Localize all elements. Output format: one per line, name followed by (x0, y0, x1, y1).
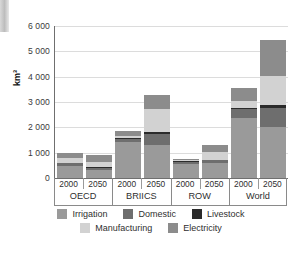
y-tick-label-5000: 5 000 (4, 47, 50, 55)
x-tick-year-briics-2000: 2000 (112, 179, 142, 189)
legend-swatch-livestock (192, 209, 202, 219)
gridline-4000 (55, 77, 288, 78)
bar-segment-manufacturing (202, 152, 228, 159)
bar-segment-irrigation (115, 142, 141, 178)
bar-segment-irrigation (144, 145, 170, 178)
x-tick-group-world: World (228, 191, 288, 201)
bar-segment-domestic (231, 109, 257, 117)
chart-legend: IrrigationDomesticLivestock Manufacturin… (0, 209, 302, 237)
legend-item-irrigation[interactable]: Irrigation (57, 209, 107, 219)
legend-label-manufacturing: Manufacturing (95, 223, 152, 233)
x-tick-year-row-2050: 2050 (199, 179, 229, 189)
bar-segment-electricity (202, 145, 228, 153)
chart-figure: km³ 01 0002 0003 0004 0005 0006 000 2000… (0, 0, 302, 255)
x-tick-group-oecd: OECD (53, 191, 113, 201)
legend-swatch-manufacturing (80, 223, 90, 233)
legend-swatch-irrigation (57, 209, 67, 219)
bar-segment-irrigation (202, 163, 228, 178)
bar-segment-electricity (86, 155, 112, 162)
bar-segment-manufacturing (231, 101, 257, 108)
gridline-6000 (55, 26, 288, 27)
x-tick-year-oecd-2000: 2000 (54, 179, 84, 189)
legend-label-electricity: Electricity (183, 223, 222, 233)
legend-swatch-domestic (123, 209, 133, 219)
x-tick-year-world-2000: 2000 (228, 179, 258, 189)
x-tick-group-row: ROW (170, 191, 230, 201)
x-tick-year-briics-2050: 2050 (141, 179, 171, 189)
bar-briics-2000 (115, 131, 141, 178)
legend-row-secondary: ManufacturingElectricity (0, 223, 302, 233)
y-tick-label-1000: 1 000 (4, 149, 50, 157)
y-tick-label-2000: 2 000 (4, 123, 50, 131)
bar-segment-manufacturing (144, 109, 170, 133)
bar-world-2000 (231, 88, 257, 178)
bar-segment-irrigation (173, 164, 199, 178)
bar-row-2050 (202, 145, 228, 178)
bar-briics-2050 (144, 95, 170, 178)
plot-area (54, 26, 287, 178)
y-tick-label-6000: 6 000 (4, 22, 50, 30)
y-tick-label-4000: 4 000 (4, 73, 50, 81)
legend-item-livestock[interactable]: Livestock (192, 209, 245, 219)
legend-item-electricity[interactable]: Electricity (168, 223, 222, 233)
bar-segment-irrigation (260, 127, 286, 178)
bar-oecd-2000 (57, 153, 83, 178)
legend-label-livestock: Livestock (207, 209, 245, 219)
x-tick-group-briics: BRIICS (111, 191, 171, 201)
bar-segment-irrigation (86, 170, 112, 178)
bar-segment-irrigation (231, 118, 257, 178)
legend-label-irrigation: Irrigation (72, 209, 107, 219)
x-tick-year-row-2000: 2000 (170, 179, 200, 189)
bar-segment-electricity (260, 40, 286, 76)
legend-item-manufacturing[interactable]: Manufacturing (80, 223, 152, 233)
legend-label-domestic: Domestic (138, 209, 176, 219)
bar-world-2050 (260, 40, 286, 178)
bar-segment-electricity (144, 95, 170, 109)
bar-segment-manufacturing (260, 76, 286, 105)
x-tick-year-world-2050: 2050 (257, 179, 287, 189)
bar-row-2000 (173, 159, 199, 178)
gridline-5000 (55, 51, 288, 52)
bar-segment-electricity (231, 88, 257, 100)
bar-segment-domestic (260, 108, 286, 127)
legend-swatch-electricity (168, 223, 178, 233)
bar-segment-irrigation (57, 166, 83, 178)
x-axis: 20002050OECD20002050BRIICS20002050ROW200… (54, 178, 287, 206)
legend-row-primary: IrrigationDomesticLivestock (0, 209, 302, 219)
bar-oecd-2050 (86, 155, 112, 178)
y-tick-label-0: 0 (4, 174, 50, 182)
y-tick-label-3000: 3 000 (4, 98, 50, 106)
x-tick-year-oecd-2050: 2050 (83, 179, 113, 189)
bar-segment-domestic (144, 134, 170, 145)
legend-item-domestic[interactable]: Domestic (123, 209, 176, 219)
